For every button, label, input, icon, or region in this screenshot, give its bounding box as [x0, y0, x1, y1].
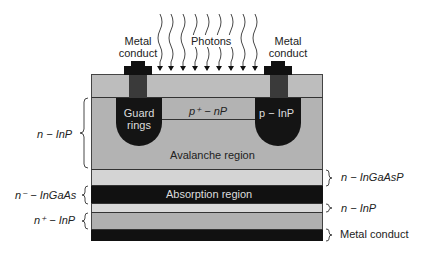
label-line: Metal — [262, 35, 314, 47]
label-p-plus-np: p⁺ − nP — [189, 105, 227, 117]
brace-n-inp-right — [326, 204, 332, 212]
label-avalanche-region: Avalanche region — [170, 149, 255, 161]
brace-metal-right — [326, 229, 332, 241]
brace-n-inp-left — [80, 98, 88, 168]
brace-n-ingaas-left — [82, 186, 88, 204]
label-line: conduct — [262, 47, 314, 59]
label-p-inp: p − InP — [259, 107, 294, 119]
label-metal-conduct-right: Metal conduct — [262, 35, 314, 59]
label-metal-conduct-left: Metal conduct — [112, 35, 164, 59]
label-photons: Photons — [190, 35, 232, 47]
label-n-minus-ingaas: n⁻ − InGaAs — [15, 189, 76, 201]
label-guard-rings: Guard rings — [118, 107, 160, 131]
brace-n-ingaasp-right — [326, 170, 332, 186]
label-n-plus-inp: n⁺ − InP — [34, 214, 75, 226]
label-n-inp-right: n − InP — [341, 202, 376, 214]
label-line: rings — [118, 119, 160, 131]
label-n-ingaasp: n − InGaAsP — [341, 171, 404, 183]
label-absorption-region: Absorption region — [166, 188, 252, 200]
label-line: Guard — [118, 107, 160, 119]
brace-n-plus-inp-left — [82, 213, 88, 229]
label-n-inp-left: n − InP — [37, 128, 72, 140]
label-line: conduct — [112, 47, 164, 59]
label-line: Metal — [112, 35, 164, 47]
label-metal-conduct-bottom: Metal conduct — [340, 228, 408, 240]
